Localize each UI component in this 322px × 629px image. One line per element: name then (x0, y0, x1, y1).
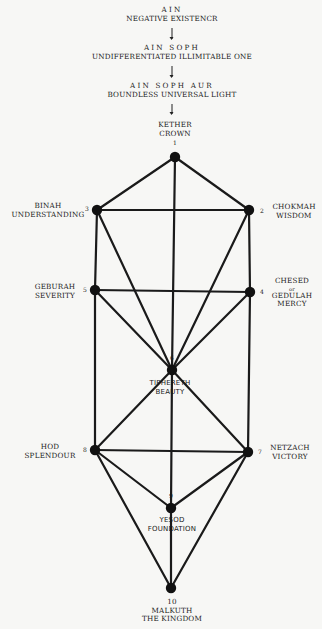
sephira-node-5 (90, 285, 100, 295)
sephira-8-label: HOD SPLENDOUR (25, 443, 76, 460)
sephira-2-label: CHOKMAH WISDOM (272, 203, 315, 220)
sephira-number: 6 (170, 355, 174, 361)
sephira-number: 1 (173, 140, 177, 146)
path-5-6 (95, 290, 172, 370)
sephira-node-1 (170, 152, 180, 162)
path-1-6 (172, 157, 175, 370)
path-8-9 (95, 450, 171, 508)
sephira-name: YESOD (148, 516, 197, 525)
sephira-number: 9 (169, 493, 173, 499)
sephira-meaning: SPLENDOUR (25, 452, 76, 461)
path-3-5 (95, 210, 97, 290)
sephira-node-3 (92, 205, 102, 215)
sephira-node-7 (243, 447, 253, 457)
sephira-meaning: BEAUTY (150, 388, 191, 397)
sephira-number: 3 (85, 206, 89, 212)
sephira-node-9 (166, 503, 176, 513)
sephira-meaning: MERCY (272, 300, 312, 309)
sephira-meaning: SEVERITY (35, 292, 76, 301)
tree-of-life-diagram: AIN NEGATIVE EXISTENCR AIN SOPH UNDIFFER… (0, 0, 322, 629)
sephira-node-2 (244, 205, 254, 215)
path-2-6 (172, 210, 249, 370)
path-1-3 (97, 157, 175, 210)
path-7-9 (171, 452, 248, 508)
sephira-meaning: FOUNDATION (148, 525, 197, 534)
sephira-6-label: TIPHERETH BEAUTY (150, 379, 191, 396)
sephira-node-10 (166, 583, 176, 593)
path-4-5 (95, 290, 250, 292)
sephira-meaning: CROWN (158, 130, 192, 139)
sephira-meaning: WISDOM (272, 212, 315, 221)
sephira-meaning: UNDERSTANDING (12, 211, 85, 220)
path-7-8 (95, 450, 248, 452)
sephira-1-label: KETHER CROWN (158, 121, 192, 138)
path-4-6 (172, 292, 250, 370)
sephira-number: 5 (83, 287, 87, 293)
sephira-node-6 (167, 365, 177, 375)
sephira-number: 8 (83, 447, 87, 453)
sephira-name: TIPHERETH (150, 379, 191, 388)
sephira-number: 2 (260, 208, 264, 214)
sephira-3-label: BINAH UNDERSTANDING (12, 202, 85, 219)
sephira-10-label: 10 MALKUTH THE KINGDOM (142, 598, 202, 624)
sephira-node-4 (245, 287, 255, 297)
sephira-name: CHESED (272, 277, 312, 286)
path-2-4 (249, 210, 250, 292)
path-1-2 (175, 157, 249, 210)
path-4-7 (248, 292, 250, 452)
sephira-4-label: CHESED or GEDULAH MERCY (272, 277, 312, 309)
sephira-meaning: THE KINGDOM (142, 615, 202, 624)
sephira-node-8 (90, 445, 100, 455)
sephira-number: 4 (260, 289, 264, 295)
sephira-9-label: YESOD FOUNDATION (148, 516, 197, 533)
sephira-7-label: NETZACH VICTORY (270, 444, 310, 461)
tree-graph (0, 0, 322, 629)
sephira-meaning: VICTORY (270, 453, 310, 462)
sephira-5-label: GEBURAH SEVERITY (35, 283, 76, 300)
sephira-number: 7 (258, 449, 262, 455)
